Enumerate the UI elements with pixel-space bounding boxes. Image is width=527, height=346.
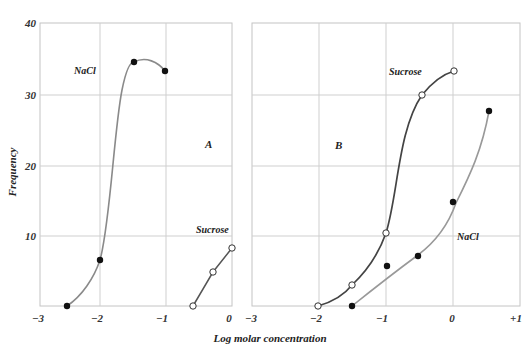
a-x-tick: −2 [91, 312, 104, 324]
y-tick-40: 40 [24, 17, 37, 29]
a-sucrose-label: Sucrose [196, 224, 229, 235]
b-nacl-point [486, 108, 492, 114]
b-sucrose-point [349, 282, 355, 288]
a-sucrose-curve [193, 248, 232, 306]
y-tick-30: 30 [24, 89, 37, 101]
panel-a: NaCl Sucrose A 40 30 20 10 −3 −2 −1 0 [24, 17, 235, 324]
a-x-tick: −3 [32, 312, 45, 324]
panel-b-label: B [334, 139, 342, 151]
b-nacl-label: NaCl [456, 231, 479, 242]
b-nacl-point [415, 253, 421, 259]
x-axis-title: Log molar concentration [212, 332, 326, 344]
a-nacl-point [131, 59, 137, 65]
figure: NaCl Sucrose A 40 30 20 10 −3 −2 −1 0 [0, 0, 527, 346]
y-axis-title: Frequency [6, 147, 18, 197]
b-nacl-point [450, 199, 456, 205]
b-sucrose-point [419, 92, 425, 98]
b-nacl-curve [352, 111, 489, 306]
b-sucrose-label: Sucrose [389, 66, 422, 77]
a-nacl-label: NaCl [73, 65, 96, 76]
b-nacl-point [349, 303, 355, 309]
a-sucrose-point [190, 303, 196, 309]
a-sucrose-point [229, 245, 235, 251]
b-x-tick: −1 [376, 312, 388, 324]
b-sucrose-point [315, 303, 321, 309]
b-nacl-point [384, 263, 390, 269]
panel-a-label: A [204, 138, 212, 150]
b-x-tick: −3 [245, 312, 258, 324]
panel-b: Sucrose NaCl B −3 −2 −1 0 +1 [245, 23, 522, 324]
a-nacl-point [64, 303, 70, 309]
a-nacl-point [162, 68, 168, 74]
a-sucrose-point [210, 269, 216, 275]
a-x-tick: −1 [156, 312, 168, 324]
b-sucrose-point [451, 68, 457, 74]
b-x-tick: 0 [449, 312, 455, 324]
y-tick-20: 20 [24, 160, 37, 172]
y-tick-10: 10 [25, 230, 37, 242]
b-x-tick: −2 [310, 312, 323, 324]
a-nacl-point [97, 257, 103, 263]
a-nacl-curve [67, 60, 165, 306]
panel-a-frame [40, 23, 232, 306]
a-x-tick: 0 [226, 312, 232, 324]
b-sucrose-point [383, 230, 389, 236]
b-x-tick: +1 [510, 312, 522, 324]
